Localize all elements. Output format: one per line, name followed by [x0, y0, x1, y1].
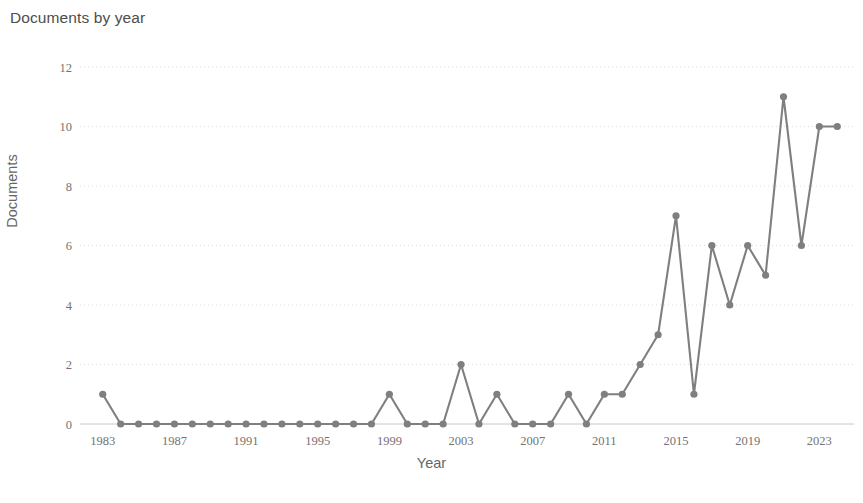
x-tick-label: 1999: [377, 434, 402, 448]
x-tick-labels-group: 1983198719911995199920032007201120152019…: [90, 434, 832, 448]
x-tick-label: 2019: [735, 434, 760, 448]
data-point-marker: [762, 272, 769, 279]
data-point-marker: [511, 420, 518, 427]
data-point-marker: [475, 420, 482, 427]
x-tick-label: 1995: [305, 434, 330, 448]
y-tick-label: 8: [66, 180, 72, 194]
data-point-marker: [457, 361, 464, 368]
data-point-marker: [207, 420, 214, 427]
x-tick-label: 2011: [592, 434, 617, 448]
data-point-marker: [744, 242, 751, 249]
data-point-marker: [99, 391, 106, 398]
data-point-marker: [834, 123, 841, 130]
data-point-marker: [296, 420, 303, 427]
chart-title: Documents by year: [10, 9, 145, 27]
data-point-marker: [493, 391, 500, 398]
data-point-marker: [547, 420, 554, 427]
x-tick-label: 2023: [807, 434, 832, 448]
data-point-marker: [619, 391, 626, 398]
data-point-marker: [332, 420, 339, 427]
data-point-marker: [225, 420, 232, 427]
y-tick-label: 12: [60, 61, 73, 75]
data-point-marker: [529, 420, 536, 427]
plot-area: Documents 024681012 19831987199119951999…: [0, 40, 863, 470]
data-point-marker: [780, 93, 787, 100]
data-point-marker: [278, 420, 285, 427]
data-point-marker: [440, 420, 447, 427]
data-point-marker: [314, 420, 321, 427]
x-tick-label: 1991: [234, 434, 259, 448]
y-tick-label: 4: [66, 299, 73, 313]
x-tick-label: 2007: [520, 434, 545, 448]
line-chart-svg: 024681012 198319871991199519992003200720…: [0, 40, 863, 470]
y-tick-labels-group: 024681012: [60, 61, 73, 432]
y-tick-label: 0: [66, 418, 72, 432]
y-tick-label: 10: [60, 120, 73, 134]
x-tick-label: 1987: [162, 434, 187, 448]
y-tick-label: 2: [66, 358, 72, 372]
x-tick-label: 1983: [90, 434, 115, 448]
data-point-marker: [708, 242, 715, 249]
data-point-marker: [171, 420, 178, 427]
x-tick-label: 2015: [664, 434, 689, 448]
data-point-marker: [404, 420, 411, 427]
data-point-marker: [655, 331, 662, 338]
data-point-marker: [117, 420, 124, 427]
data-point-markers-group: [99, 93, 841, 427]
data-point-marker: [816, 123, 823, 130]
data-point-marker: [242, 420, 249, 427]
data-point-marker: [153, 420, 160, 427]
data-point-marker: [260, 420, 267, 427]
series-group: [99, 93, 841, 427]
data-point-marker: [565, 391, 572, 398]
data-point-marker: [690, 391, 697, 398]
data-point-marker: [637, 361, 644, 368]
y-axis-title: Documents: [4, 131, 20, 251]
documents-by-year-figure: Documents by year Documents 024681012 19…: [0, 0, 863, 503]
data-point-marker: [726, 301, 733, 308]
data-point-marker: [386, 391, 393, 398]
data-point-marker: [798, 242, 805, 249]
x-axis-title: Year: [0, 455, 863, 471]
x-tick-label: 2003: [449, 434, 474, 448]
documents-series-line: [103, 97, 838, 424]
data-point-marker: [672, 212, 679, 219]
data-point-marker: [422, 420, 429, 427]
data-point-marker: [350, 420, 357, 427]
data-point-marker: [368, 420, 375, 427]
data-point-marker: [601, 391, 608, 398]
y-tick-label: 6: [66, 239, 72, 253]
data-point-marker: [135, 420, 142, 427]
data-point-marker: [189, 420, 196, 427]
gridlines-group: [80, 67, 854, 424]
data-point-marker: [583, 420, 590, 427]
